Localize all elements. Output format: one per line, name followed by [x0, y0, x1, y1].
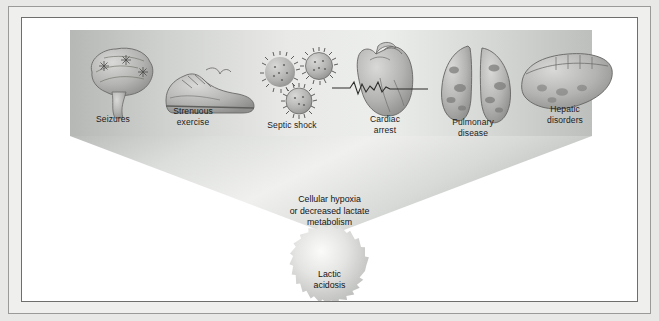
mechanism-text: Cellular hypoxia or decreased lactate me… — [22, 194, 637, 229]
cause-label-cardiac-arrest: Cardiac arrest — [342, 114, 428, 135]
cause-label-seizures: Seizures — [70, 114, 156, 125]
cause-label-strenuous-exercise: Strenuous exercise — [150, 106, 236, 127]
lactic-acidosis-burst — [290, 224, 369, 302]
funnel-svg — [22, 18, 638, 302]
diagram-canvas: Seizures Strenuous exercise Septic shock… — [21, 17, 638, 302]
diagram-page: Seizures Strenuous exercise Septic shock… — [0, 0, 659, 321]
cause-label-hepatic-disorders: Hepatic disorders — [520, 104, 610, 125]
funnel-graphic: Seizures Strenuous exercise Septic shock… — [22, 18, 637, 301]
cause-label-septic-shock: Septic shock — [244, 120, 340, 131]
cause-label-pulmonary-disease: Pulmonary disease — [428, 117, 518, 138]
